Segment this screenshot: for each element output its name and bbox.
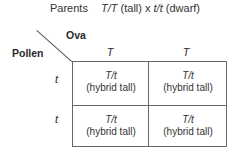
cell-genotype: T/t: [150, 114, 226, 126]
cell-genotype: T/t: [73, 114, 149, 126]
cell-phenotype: (hybrid tall): [73, 82, 149, 94]
cell-phenotype: (hybrid tall): [150, 82, 226, 94]
parents-cross: Parents T/T (tall) x t/t (dwarf): [50, 2, 200, 14]
grid-divider-horizontal: [73, 105, 226, 106]
row-header-1: t: [55, 73, 58, 85]
pollen-label: Pollen: [12, 47, 44, 59]
cross-symbol: x: [145, 2, 151, 14]
cell-genotype: T/t: [73, 70, 149, 82]
row-header-2: t: [55, 113, 58, 125]
parent1-genotype: T/T: [101, 2, 118, 14]
cell-phenotype: (hybrid tall): [73, 126, 149, 138]
cell-r2-c1: T/t (hybrid tall): [73, 114, 149, 138]
parent2-phenotype: (dwarf): [166, 2, 200, 14]
ova-label: Ova: [66, 29, 86, 41]
parent1-phenotype: (tall): [121, 2, 142, 14]
cell-r1-c1: T/t (hybrid tall): [73, 70, 149, 94]
cell-phenotype: (hybrid tall): [150, 126, 226, 138]
cell-r1-c2: T/t (hybrid tall): [150, 70, 226, 94]
parents-label: Parents: [50, 2, 88, 14]
punnett-square: T/t (hybrid tall) T/t (hybrid tall) T/t …: [72, 61, 227, 147]
parent2-genotype: t/t: [154, 2, 163, 14]
column-header-1: T: [72, 46, 148, 58]
cell-genotype: T/t: [150, 70, 226, 82]
column-header-2: T: [148, 46, 224, 58]
cell-r2-c2: T/t (hybrid tall): [150, 114, 226, 138]
